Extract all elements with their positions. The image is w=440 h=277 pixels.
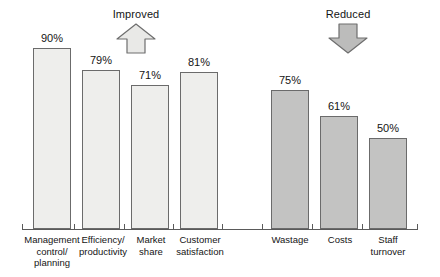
axis-tick [22,224,23,229]
axis-tick [74,224,75,229]
bar [320,116,358,229]
plot-area: 90%79%71%81%75%61%50% [0,0,440,232]
bar [33,48,71,229]
bar [369,138,407,229]
category-label: Customer satisfaction [167,234,233,257]
bar-value-label: 61% [309,100,369,112]
category-label: Staff turnover [356,234,420,257]
bar [131,85,169,229]
bar [271,90,309,229]
axis-tick [222,224,223,229]
axis-tick [262,224,263,229]
bar-value-label: 50% [358,122,418,134]
bar-value-label: 75% [260,74,320,86]
bar-value-label: 81% [169,56,229,68]
axis-tick [124,224,125,229]
axis-tick [312,224,313,229]
x-axis-line [22,229,418,230]
bar-chart: Improved Reduced 90%79%71%81%75%61%50% M… [0,0,440,277]
bar [82,70,120,229]
bar-value-label: 79% [71,54,131,66]
bar-value-label: 90% [22,32,82,44]
bar-value-label: 71% [120,69,180,81]
axis-tick [417,224,418,229]
axis-tick [362,224,363,229]
bar [180,72,218,229]
axis-tick [173,224,174,229]
